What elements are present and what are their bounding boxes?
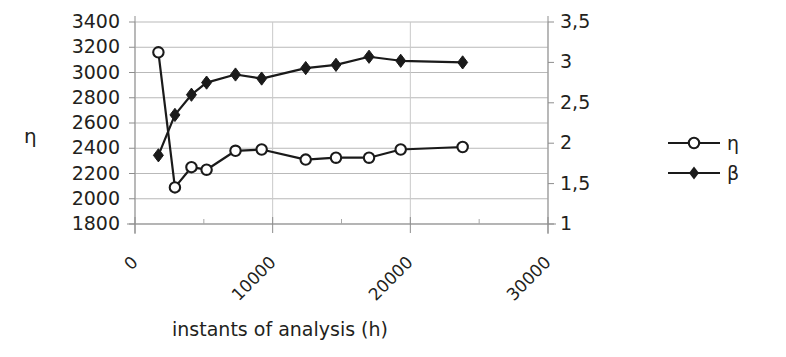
data-point-marker: [396, 54, 406, 67]
data-point-marker: [331, 153, 341, 163]
y-axis-title: η: [24, 124, 37, 148]
open-circle-icon: [689, 138, 699, 148]
data-point-marker: [395, 144, 405, 154]
legend-marker-filled-diamond-icon: [668, 166, 720, 180]
data-point-marker: [256, 144, 266, 154]
chart-legend: ηβ: [668, 128, 739, 188]
data-point-marker: [170, 182, 180, 192]
plot-area: [0, 0, 600, 250]
data-point-marker: [331, 58, 341, 71]
legend-item[interactable]: β: [668, 158, 739, 188]
x-axis-title: instants of analysis (h): [0, 318, 560, 340]
data-point-marker: [364, 153, 374, 163]
filled-diamond-icon: [689, 166, 699, 179]
data-point-marker: [202, 76, 212, 89]
data-point-marker: [230, 146, 240, 156]
data-point-marker: [458, 56, 468, 69]
data-point-marker: [153, 149, 163, 162]
legend-label: β: [727, 164, 739, 183]
legend-label: η: [727, 134, 739, 153]
chart-figure: 180020002200240026002800300032003400 11,…: [0, 0, 786, 357]
data-point-marker: [201, 165, 211, 175]
legend-marker-glyph: [686, 165, 702, 181]
data-point-marker: [230, 68, 240, 81]
data-point-marker: [153, 47, 163, 57]
legend-item[interactable]: η: [668, 128, 739, 158]
data-point-marker: [457, 142, 467, 152]
data-point-marker: [186, 162, 196, 172]
legend-marker-open-circle-icon: [668, 136, 720, 150]
series-2: [153, 50, 467, 162]
legend-marker-glyph: [686, 135, 702, 151]
series-line: [158, 57, 462, 156]
data-point-marker: [364, 50, 374, 63]
data-point-marker: [257, 72, 267, 85]
data-point-marker: [301, 154, 311, 164]
